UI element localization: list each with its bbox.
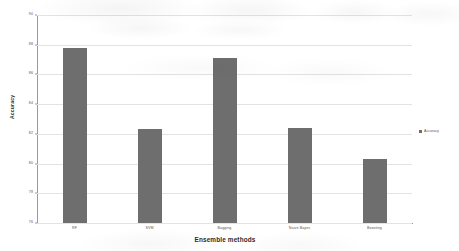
bar[interactable]	[288, 128, 312, 223]
bars-group: RFSVMBaggingNaive BayesBoosting	[37, 15, 412, 223]
bar[interactable]	[213, 58, 237, 223]
y-tick-label: 78	[29, 191, 33, 195]
y-tick-label: 76	[29, 221, 33, 225]
y-tick-label: 82	[29, 132, 33, 136]
bar[interactable]	[363, 159, 387, 223]
bar[interactable]	[138, 129, 162, 223]
bar[interactable]	[63, 48, 87, 223]
gridline	[37, 223, 412, 224]
figure-page: 9088868482807876 RFSVMBaggingNaive Bayes…	[0, 0, 459, 251]
chart-legend: Accuracy	[419, 129, 439, 133]
y-tick-label: 86	[29, 73, 33, 77]
plot-area: 9088868482807876 RFSVMBaggingNaive Bayes…	[37, 15, 412, 223]
bar-chart: 9088868482807876 RFSVMBaggingNaive Bayes…	[0, 0, 459, 251]
y-tick-label: 90	[29, 13, 33, 17]
bar-slot: RF	[37, 15, 112, 223]
x-tick-label: SVM	[145, 227, 153, 231]
bar-slot: Bagging	[187, 15, 262, 223]
legend-label-accuracy: Accuracy	[424, 129, 439, 133]
x-tick-label: RF	[72, 227, 77, 231]
x-tick-label: Naive Bayes	[289, 227, 310, 231]
y-axis-title: Accuracy	[9, 95, 15, 119]
bar-slot: SVM	[112, 15, 187, 223]
x-axis-title: Ensemble methods	[37, 236, 413, 243]
y-tick-label: 88	[29, 43, 33, 47]
y-tick-label: 84	[29, 102, 33, 106]
y-tick-label: 80	[29, 162, 33, 166]
x-tick-label: Bagging	[218, 227, 232, 231]
bar-slot: Naive Bayes	[262, 15, 337, 223]
legend-swatch-accuracy	[419, 130, 422, 133]
x-tick-label: Boosting	[367, 227, 382, 231]
bar-slot: Boosting	[337, 15, 412, 223]
